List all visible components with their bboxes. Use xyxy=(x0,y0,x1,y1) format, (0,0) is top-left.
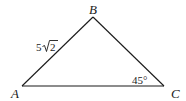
vertex-label-c: C xyxy=(171,86,180,101)
vertex-label-a: A xyxy=(10,86,19,101)
side-ab-radicand: 2 xyxy=(50,41,56,53)
side-bc xyxy=(93,17,164,86)
side-label-ab: 5 2 xyxy=(36,41,58,54)
angle-label-c: 45° xyxy=(132,74,147,86)
side-ab-coefficient: 5 xyxy=(36,41,42,53)
triangle-diagram: A B C 5 2 45° xyxy=(0,0,186,101)
vertex-label-b: B xyxy=(89,2,97,17)
side-ab xyxy=(22,17,93,86)
